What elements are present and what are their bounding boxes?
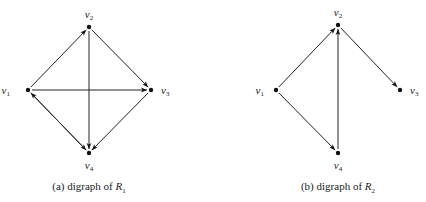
edge-v4-v1 xyxy=(31,93,86,150)
vertex-v2 xyxy=(336,23,340,27)
edge-v1-v4 xyxy=(279,93,335,150)
vertex-v2 xyxy=(87,25,91,29)
caption-r2: (b) digraph of R2 xyxy=(301,180,376,195)
digraph-r1: v1v2v3v4 xyxy=(2,8,170,173)
vertex-label-v1: v1 xyxy=(256,84,265,98)
vertex-label-v2: v2 xyxy=(334,6,343,20)
vertex-label-v3: v3 xyxy=(410,84,419,98)
vertex-label-v1: v1 xyxy=(2,84,11,98)
vertex-v3 xyxy=(149,88,153,92)
vertex-label-v4: v4 xyxy=(85,159,94,173)
edge-v2-v3 xyxy=(341,28,397,87)
vertex-v3 xyxy=(398,88,402,92)
vertex-v4 xyxy=(336,151,340,155)
vertex-v4 xyxy=(87,151,91,155)
edge-v2-v3 xyxy=(92,30,148,87)
vertex-label-v3: v3 xyxy=(161,84,170,98)
digraph-r2: v1v2v3v4 xyxy=(256,6,419,173)
vertex-v1 xyxy=(26,88,30,92)
edge-v1-v2 xyxy=(31,30,86,87)
edge-v3-v4 xyxy=(92,93,148,150)
edge-v1-v2 xyxy=(279,28,335,87)
caption-r1: (a) digraph of R1 xyxy=(52,180,126,195)
digraph-figure: v1v2v3v4 v1v2v3v4 (a) digraph of R1 (b) … xyxy=(0,0,426,202)
vertex-label-v2: v2 xyxy=(85,8,94,22)
vertex-v1 xyxy=(274,88,278,92)
vertex-label-v4: v4 xyxy=(334,159,343,173)
